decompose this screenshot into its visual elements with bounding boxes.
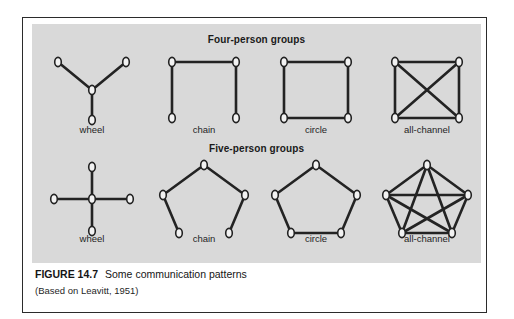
graph-node <box>281 113 288 122</box>
graph-node <box>201 160 208 169</box>
graph-svg-wheel <box>36 157 148 235</box>
graph-label-four-circle: circle <box>260 124 372 135</box>
graph-svg-wheel <box>36 48 148 126</box>
graph-node <box>392 57 399 66</box>
graph-node <box>160 190 167 199</box>
graph-node <box>233 113 240 122</box>
graph-cell-four-wheel: wheel <box>36 48 148 148</box>
graph-node <box>465 190 472 199</box>
graph-node <box>281 57 288 66</box>
section-title-four-person: Four-person groups <box>32 34 481 45</box>
graph-edge <box>204 165 245 195</box>
caption-source: (Based on Leavitt, 1951) <box>35 285 465 296</box>
graph-svg-all-channel <box>371 157 483 235</box>
graph-node <box>392 113 399 122</box>
figure-container: Four-person groups Five-person groups wh… <box>22 17 487 313</box>
graph-node <box>51 194 58 203</box>
graph-node <box>354 190 361 199</box>
diagram-panel: Four-person groups Five-person groups wh… <box>32 24 481 263</box>
graph-edge <box>163 195 179 233</box>
graph-node <box>456 113 463 122</box>
graph-edge <box>163 165 204 195</box>
graph-label-five-wheel: wheel <box>36 233 148 244</box>
graph-edge <box>275 195 291 233</box>
graph-label-four-all-channel: all-channel <box>371 124 483 135</box>
graph-four-circle <box>260 48 372 126</box>
graph-four-wheel <box>36 48 148 126</box>
graph-label-five-all-channel: all-channel <box>371 233 483 244</box>
graph-node <box>55 57 62 66</box>
figure-number: FIGURE 14.7 <box>35 268 98 280</box>
graph-cell-five-all-channel: all-channel <box>371 157 483 257</box>
graph-five-chain <box>148 157 260 235</box>
graph-cell-five-circle: circle <box>260 157 372 257</box>
graph-svg-circle <box>260 157 372 235</box>
graph-edge <box>275 165 316 195</box>
graph-node <box>169 57 176 66</box>
graph-edge <box>316 165 357 195</box>
graph-label-five-circle: circle <box>260 233 372 244</box>
graph-four-chain <box>148 48 260 126</box>
graph-svg-all-channel <box>371 48 483 126</box>
graph-svg-circle <box>260 48 372 126</box>
graph-edge <box>386 195 452 233</box>
graph-edge <box>92 62 126 90</box>
graph-cell-four-all-channel: all-channel <box>371 48 483 148</box>
graph-svg-chain <box>148 157 260 235</box>
graph-four-all-channel <box>371 48 483 126</box>
graph-node <box>313 160 320 169</box>
figure-title: Some communication patterns <box>105 268 247 280</box>
graph-cell-five-wheel: wheel <box>36 157 148 257</box>
graph-cell-four-chain: chain <box>148 48 260 148</box>
graph-edge <box>229 195 245 233</box>
graph-node <box>272 190 279 199</box>
graph-node <box>383 190 390 199</box>
graph-label-four-chain: chain <box>148 124 260 135</box>
graph-node <box>169 113 176 122</box>
graph-label-five-chain: chain <box>148 233 260 244</box>
graph-edge <box>58 62 92 90</box>
graph-node <box>424 160 431 169</box>
graph-node <box>89 162 96 171</box>
graph-node <box>89 194 96 203</box>
graph-five-circle <box>260 157 372 235</box>
graph-label-four-wheel: wheel <box>36 124 148 135</box>
graph-node <box>345 113 352 122</box>
graph-five-wheel <box>36 157 148 235</box>
graph-node <box>123 57 130 66</box>
graph-node <box>456 57 463 66</box>
graph-cell-four-circle: circle <box>260 48 372 148</box>
caption-primary-line: FIGURE 14.7Some communication patterns <box>35 268 465 280</box>
graph-node <box>345 57 352 66</box>
graph-five-all-channel <box>371 157 483 235</box>
graph-node <box>89 85 96 94</box>
graph-node <box>233 57 240 66</box>
graph-edge <box>341 195 357 233</box>
graph-cell-five-chain: chain <box>148 157 260 257</box>
figure-caption: FIGURE 14.7Some communication patterns (… <box>35 268 465 296</box>
graph-edge <box>402 195 468 233</box>
graph-node <box>242 190 249 199</box>
graph-svg-chain <box>148 48 260 126</box>
graph-node <box>127 194 134 203</box>
